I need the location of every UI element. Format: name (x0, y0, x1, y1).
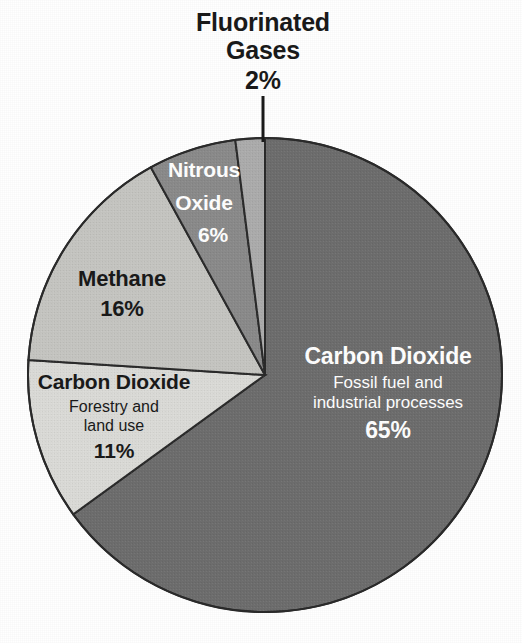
callout-fluorinated-gases-percent: 2% (133, 66, 393, 94)
pie-chart: Fluorinated Gases 2% Carbon Dioxide Foss… (0, 0, 522, 643)
slice-label-name: Carbon Dioxide (272, 344, 504, 370)
slice-label-sub-line1: Forestry and (16, 397, 212, 417)
slice-label-nitrous-oxide: Nitrous Oxide 6% (152, 158, 256, 247)
slice-label-percent: 11% (16, 439, 212, 463)
slice-label-sub-line2: industrial processes (272, 393, 504, 414)
slice-label-name-line2: Oxide (152, 191, 256, 215)
slice-label-percent: 65% (272, 418, 504, 444)
callout-title-line2: Gases (226, 36, 300, 64)
slice-label-name: Methane (38, 267, 206, 292)
callout-fluorinated-gases-title: Fluorinated Gases (133, 8, 393, 64)
pie-chart-graphic (0, 0, 522, 643)
slice-label-sub-line2: land use (16, 416, 212, 436)
slice-label-name-line1: Nitrous (152, 158, 256, 182)
slice-label-carbon-dioxide-fossil: Carbon Dioxide Fossil fuel and industria… (272, 344, 504, 444)
slice-label-name: Carbon Dioxide (16, 370, 212, 394)
slice-label-percent: 6% (170, 223, 256, 247)
slice-label-carbon-dioxide-forestry: Carbon Dioxide Forestry and land use 11% (16, 370, 212, 462)
callout-title-line1: Fluorinated (196, 8, 330, 36)
slice-label-methane: Methane 16% (38, 267, 206, 321)
slice-label-percent: 16% (38, 297, 206, 322)
slice-label-sub-line1: Fossil fuel and (272, 373, 504, 394)
